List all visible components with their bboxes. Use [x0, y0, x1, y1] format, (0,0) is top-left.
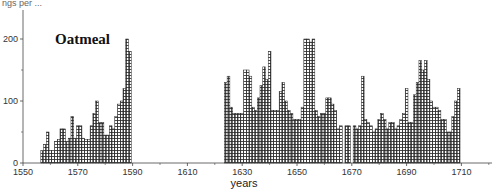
- bar: [326, 98, 329, 163]
- bar: [241, 113, 244, 163]
- bar: [378, 120, 381, 163]
- bar: [408, 123, 411, 163]
- bar: [249, 76, 252, 163]
- bar: [411, 123, 414, 163]
- bar: [71, 117, 74, 164]
- bar: [115, 117, 118, 164]
- bar: [68, 138, 71, 163]
- bar: [323, 113, 326, 163]
- x-tick-label: 1570: [68, 167, 88, 177]
- bar: [383, 120, 386, 163]
- bar: [279, 92, 282, 163]
- bar: [301, 107, 304, 163]
- bar: [441, 120, 444, 163]
- bar: [446, 132, 449, 163]
- bar: [334, 110, 337, 163]
- bar: [329, 98, 332, 163]
- bar: [274, 110, 277, 163]
- bar: [315, 110, 318, 163]
- oatmeal-bar-chart: ngs per ... 0100200155015701590161016301…: [0, 0, 499, 193]
- bar: [49, 151, 52, 163]
- bar: [252, 107, 255, 163]
- bar: [227, 76, 230, 163]
- bar: [282, 82, 285, 163]
- bar: [359, 126, 362, 163]
- bar: [296, 120, 299, 163]
- bar: [348, 126, 351, 163]
- bar: [433, 107, 436, 163]
- x-tick-label: 1590: [123, 167, 143, 177]
- bar: [112, 129, 115, 163]
- bar: [107, 135, 110, 163]
- bar: [405, 89, 408, 163]
- x-tick-label: 1610: [177, 167, 197, 177]
- bar: [375, 129, 378, 163]
- top-cutoff-text: ngs per ...: [2, 0, 42, 8]
- bar: [41, 151, 44, 163]
- bar: [63, 129, 66, 163]
- x-tick-label: 1670: [342, 167, 362, 177]
- bar: [361, 76, 364, 163]
- bar: [104, 135, 107, 163]
- bar: [356, 129, 359, 163]
- x-tick-label: 1630: [232, 167, 252, 177]
- bar: [82, 138, 85, 163]
- bar: [455, 101, 458, 163]
- bar: [397, 126, 400, 163]
- bar: [46, 132, 49, 163]
- bar: [101, 123, 104, 163]
- bar: [79, 126, 82, 163]
- bar: [331, 104, 334, 163]
- bar: [260, 86, 263, 164]
- bar: [367, 123, 370, 163]
- bar: [424, 61, 427, 163]
- bar: [257, 98, 260, 163]
- bar: [427, 79, 430, 163]
- bar: [268, 51, 271, 163]
- bar: [52, 151, 55, 163]
- bar: [96, 101, 99, 163]
- bar: [120, 101, 123, 163]
- bar: [364, 120, 367, 163]
- bar: [118, 104, 121, 163]
- bar: [293, 120, 296, 163]
- bar: [290, 113, 293, 163]
- bar: [419, 61, 422, 163]
- bar: [93, 113, 96, 163]
- bar: [430, 101, 433, 163]
- bar: [389, 123, 392, 163]
- bar: [345, 126, 348, 163]
- bar: [416, 82, 419, 163]
- chart-title: Oatmeal: [55, 31, 110, 47]
- bar: [309, 42, 312, 163]
- bar: [57, 139, 60, 163]
- x-tick-label: 1690: [397, 167, 417, 177]
- bar: [265, 79, 268, 163]
- bar: [312, 39, 315, 163]
- x-tick-label: 1710: [451, 167, 471, 177]
- bar: [271, 110, 274, 163]
- bar: [65, 141, 68, 163]
- bar: [74, 138, 77, 163]
- bar: [298, 120, 301, 163]
- bar: [318, 117, 321, 164]
- bar: [76, 126, 79, 163]
- bar: [230, 107, 233, 163]
- bars-group: [41, 39, 460, 163]
- bar: [444, 120, 447, 163]
- bar: [402, 113, 405, 163]
- bar: [394, 129, 397, 163]
- bar: [60, 129, 63, 163]
- bar: [435, 107, 438, 163]
- bar: [337, 129, 340, 163]
- x-tick-label: 1550: [13, 167, 33, 177]
- bar: [422, 70, 425, 163]
- bar: [123, 89, 126, 163]
- bar: [438, 110, 441, 163]
- bar: [255, 110, 258, 163]
- bar: [449, 132, 452, 163]
- bar: [372, 132, 375, 163]
- y-tick-label: 100: [3, 96, 18, 106]
- x-tick-label: 1650: [287, 167, 307, 177]
- bar: [85, 139, 88, 163]
